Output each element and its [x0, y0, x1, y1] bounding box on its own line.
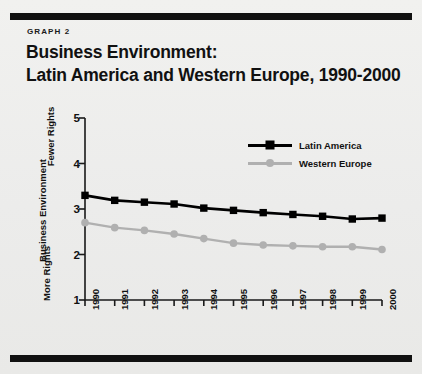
line-chart: Business Environment Fewer Rights More R…	[0, 0, 422, 374]
plot-area	[0, 0, 422, 374]
legend-swatch-latin-america	[248, 139, 292, 151]
legend-item-latin-america: Latin America	[248, 136, 372, 154]
chart-legend: Latin America Western Europe	[248, 136, 372, 172]
legend-label-latin-america: Latin America	[299, 140, 361, 151]
legend-item-western-europe: Western Europe	[248, 154, 372, 172]
page-background: GRAPH 2 Business Environment: Latin Amer…	[0, 0, 422, 374]
legend-label-western-europe: Western Europe	[299, 158, 372, 169]
legend-swatch-western-europe	[248, 157, 292, 169]
